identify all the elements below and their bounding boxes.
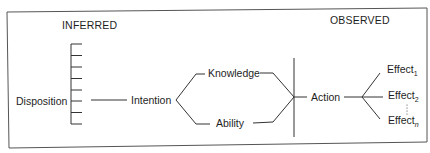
node-action: Action [311,91,340,103]
effect-2-label: Effect [388,89,415,101]
observed-header: OBSERVED [330,14,390,26]
edge-intention-ability [176,100,210,124]
effect-n-subscript: n [415,121,419,128]
disposition-scale [71,44,82,124]
node-intention: Intention [131,94,171,106]
effect-2-subscript: 2 [415,96,419,103]
node-effect-2: Effect2 [388,89,419,106]
node-disposition: Disposition [16,95,67,107]
effect-1-label: Effect [387,63,414,75]
edge-intention-knowledge [176,74,205,100]
edge-action-effectn [362,97,380,119]
node-ability: Ability [216,117,244,129]
edge-action-effect1 [362,73,380,97]
node-effect-n: Effectn [388,114,419,131]
edge-ability-action [253,97,294,123]
inferred-header: INFERRED [62,19,117,31]
edge-knowledge-action [260,73,294,97]
node-effect-1: Effect1 [387,63,418,80]
effect-n-label: Effect [388,114,415,126]
node-knowledge: Knowledge [208,67,260,79]
effect-1-subscript: 1 [414,70,418,77]
